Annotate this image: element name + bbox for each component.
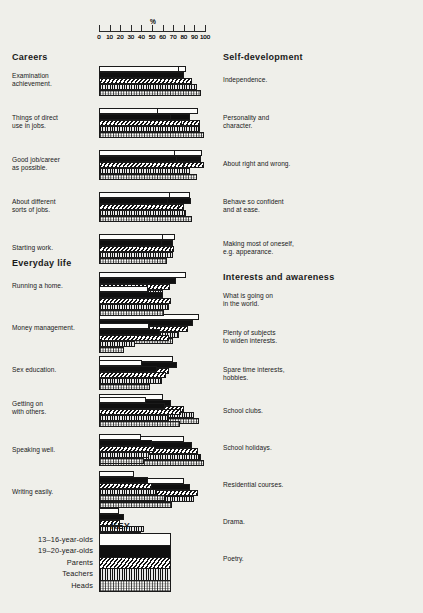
bar-group: Personality andcharacter.: [211, 108, 422, 138]
key-label: 19–20-year-olds: [8, 545, 93, 556]
bar-group: Spare time interests,hobbies.: [211, 360, 422, 390]
label-line: Spare time interests,: [223, 366, 307, 374]
key-swatch-box: [99, 533, 171, 592]
label-line: hobbies.: [223, 374, 307, 382]
bar-group-label: Spare time interests,hobbies.: [223, 366, 307, 382]
bar-group-label: Behave so confidentand at ease.: [223, 198, 307, 214]
key-swatch-stipple: [100, 580, 170, 591]
label-line: School clubs.: [223, 407, 307, 415]
key-title: KEY: [111, 521, 130, 531]
bar-group-label: Drama.: [223, 518, 307, 526]
label-line: About right and wrong.: [223, 160, 307, 168]
bar-group: Plenty of subjectsto widen interests.: [211, 323, 422, 353]
bar-group-label: Independence.: [223, 76, 307, 84]
section-heading-interests-and-awareness: Interests and awareness: [223, 272, 334, 282]
bar-group-label: School holidays.: [223, 444, 307, 452]
key-label: Teachers: [8, 568, 93, 579]
chart-page: %0102030405060708090100CareersExaminatio…: [0, 0, 423, 613]
section-heading-self-development: Self-development: [223, 52, 303, 62]
label-line: and at ease.: [223, 206, 307, 214]
label-line: in the world.: [223, 300, 307, 308]
bar-group-label: Poetry.: [223, 555, 307, 563]
label-line: Plenty of subjects: [223, 329, 307, 337]
bar-group-label: School clubs.: [223, 407, 307, 415]
label-line: Personality and: [223, 114, 307, 122]
bar-group: Residential courses.: [211, 471, 422, 501]
bar-group: School holidays.: [211, 434, 422, 464]
key-labels: 13–16-year-olds19–20-year-oldsParentsTea…: [8, 534, 93, 591]
key-swatch-diagonal-hatch: [100, 557, 170, 568]
bar-group: School clubs.: [211, 397, 422, 427]
bar-group: What is going onin the world.: [211, 286, 422, 316]
key-label: Heads: [8, 580, 93, 591]
label-line: Making most of oneself,: [223, 240, 307, 248]
bar-group: Behave so confidentand at ease.: [211, 192, 422, 222]
bar-group: Making most of oneself,e.g. appearance.: [211, 234, 422, 264]
bar-group: Drama.: [211, 508, 422, 538]
chart-key: KEY13–16-year-olds19–20-year-oldsParents…: [0, 0, 211, 613]
right-column: %0102030405060708090100Self-developmentI…: [211, 0, 422, 613]
key-label: Parents: [8, 557, 93, 568]
label-line: School holidays.: [223, 444, 307, 452]
label-line: Independence.: [223, 76, 307, 84]
bar-group: Independence.: [211, 66, 422, 96]
label-line: character.: [223, 122, 307, 130]
bar-group: Poetry.: [211, 545, 422, 575]
key-swatch-white: [100, 534, 170, 545]
label-line: What is going on: [223, 292, 307, 300]
bar-group-label: Residential courses.: [223, 481, 307, 489]
bar-group-label: What is going onin the world.: [223, 292, 307, 308]
key-swatch-black: [100, 545, 170, 556]
key-label: 13–16-year-olds: [8, 534, 93, 545]
label-line: Drama.: [223, 518, 307, 526]
label-line: Behave so confident: [223, 198, 307, 206]
bar-group: About right and wrong.: [211, 150, 422, 180]
label-line: e.g. appearance.: [223, 248, 307, 256]
label-line: Residential courses.: [223, 481, 307, 489]
bar-group-label: About right and wrong.: [223, 160, 307, 168]
bar-group-label: Making most of oneself,e.g. appearance.: [223, 240, 307, 256]
bar-group-label: Personality andcharacter.: [223, 114, 307, 130]
label-line: to widen interests.: [223, 337, 307, 345]
label-line: Poetry.: [223, 555, 307, 563]
bar-group-label: Plenty of subjectsto widen interests.: [223, 329, 307, 345]
key-swatch-vertical-lines: [100, 568, 170, 579]
